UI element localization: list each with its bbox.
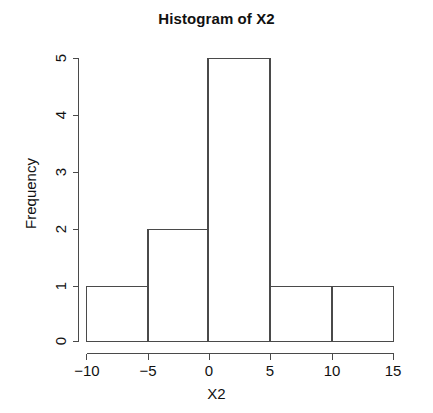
y-axis-label: Frequency [22,134,39,254]
histogram-bar [332,287,394,342]
y-tick-label-3: 3 [52,168,69,176]
y-tick-labels: 5 4 3 2 1 0 [52,54,69,345]
x-tick-label-neg5: −5 [139,362,156,379]
y-tick-label-2: 2 [52,225,69,233]
y-axis [73,59,79,342]
histogram-bar [208,59,270,342]
histogram-bars [87,59,394,342]
x-tick-label-15: 15 [385,362,402,379]
x-tick-labels: −10 −5 0 5 10 15 [74,362,401,379]
x-tick-label-5: 5 [266,362,274,379]
y-tick-label-4: 4 [52,111,69,119]
y-tick-label-1: 1 [52,282,69,290]
x-tick-label-0: 0 [205,362,213,379]
x-axis [87,354,394,360]
x-axis-label: X2 [0,385,433,402]
x-tick-label-10: 10 [324,362,341,379]
plot-canvas: 5 4 3 2 1 0 −10 −5 0 [0,0,433,413]
histogram-bar [148,230,208,342]
histogram-figure: Histogram of X2 5 4 3 2 1 0 [0,0,433,413]
y-tick-label-0: 0 [52,337,69,345]
histogram-bar [87,287,149,342]
y-tick-label-5: 5 [52,54,69,62]
histogram-bar [270,287,332,342]
x-tick-label-neg10: −10 [74,362,99,379]
